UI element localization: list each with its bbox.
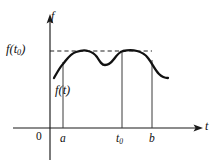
y-axis-label: f [51, 10, 54, 22]
origin-label: 0 [36, 131, 42, 143]
x-tick-label-b: b [149, 133, 155, 145]
level-value-label-subscript: 0 [17, 48, 21, 57]
level-value-label-main: f(t [6, 42, 17, 56]
function-curve [54, 50, 168, 78]
x-axis-label: t [205, 120, 208, 132]
function-graph-figure: f t f(t0) f(t) 0 a t0 b [0, 0, 224, 165]
figure-canvas [0, 0, 224, 165]
x-tick-label-t0-subscript: 0 [119, 137, 123, 146]
x-tick-label-a: a [60, 133, 66, 145]
level-value-label: f(t0) [6, 43, 25, 56]
y-axis [47, 14, 54, 160]
x-tick-label-t0: t0 [116, 133, 123, 145]
level-value-label-close: ) [21, 42, 25, 56]
curve-label: f(t) [55, 84, 70, 97]
